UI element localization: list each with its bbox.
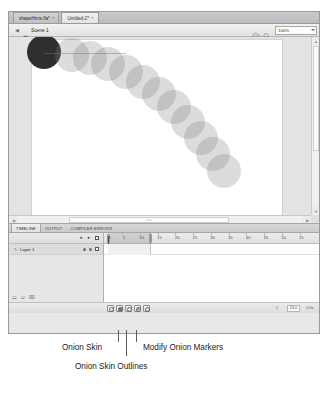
new-folder-icon[interactable]: ▱	[21, 295, 25, 300]
stage-vertical-scrollbar[interactable]: ▲ ▼	[311, 37, 319, 215]
close-icon[interactable]: ×	[52, 16, 55, 20]
leader-line-onion-skin-outlines	[126, 330, 127, 356]
edit-symbol-icon[interactable]	[263, 26, 271, 34]
frame-row[interactable]	[104, 244, 319, 255]
frames-column: 1510152025303540455055	[104, 233, 319, 302]
ruler-tick-label: 10	[140, 236, 144, 240]
zoom-level-value: 100%	[278, 28, 289, 33]
ruler-tick-label: 50	[282, 236, 286, 240]
layers-column: ● ● ✎ Layer 1 ▭ ▱ ⌧	[9, 233, 104, 302]
ruler-tick-label: 5	[123, 236, 125, 240]
motion-guide-line	[44, 53, 126, 54]
center-frame-button[interactable]	[107, 305, 114, 312]
flash-document-window: shapeHints.fla* × Untitled-2* × ◀ Scene …	[8, 11, 320, 334]
tab-compiler-errors[interactable]: COMPILER ERRORS	[66, 224, 116, 232]
stage-canvas[interactable]	[31, 39, 283, 215]
onion-skin-range-marker[interactable]	[108, 233, 151, 244]
fps-readout[interactable]: 24.0	[287, 305, 300, 312]
scroll-right-icon[interactable]: ▶	[303, 216, 311, 223]
stage-horizontal-scrollbar[interactable]: ◀ ▶	[9, 215, 311, 223]
layer-row[interactable]: ✎ Layer 1	[9, 244, 103, 255]
document-tab-shapehints[interactable]: shapeHints.fla* ×	[13, 12, 59, 23]
edit-multiple-frames-button[interactable]	[134, 305, 141, 312]
tab-output-label: OUTPUT	[45, 226, 63, 231]
tab-compiler-errors-label: COMPILER ERRORS	[70, 226, 112, 231]
timeline-body: ● ● ✎ Layer 1 ▭ ▱ ⌧	[9, 233, 319, 302]
ruler-tick-label: 35	[228, 236, 232, 240]
ruler-tick-label: 25	[193, 236, 197, 240]
document-tab-label: Untitled-2*	[67, 16, 88, 21]
panel-tab-bar: TIMELINE OUTPUT COMPILER ERRORS	[9, 223, 319, 233]
scroll-up-icon[interactable]: ▲	[312, 37, 319, 45]
frames-grid[interactable]	[104, 244, 319, 302]
layer-outline-box[interactable]	[95, 247, 99, 251]
back-arrow-icon[interactable]: ◀	[15, 27, 19, 33]
onion-skin-outlines-button[interactable]	[125, 305, 132, 312]
zoom-level-select[interactable]: 100%	[275, 26, 317, 35]
stage-pasteboard[interactable]	[9, 37, 311, 215]
ruler-tick-label: 20	[175, 236, 179, 240]
lock-icon[interactable]: ●	[87, 236, 90, 240]
layer-tools: ▭ ▱ ⌧	[12, 295, 35, 300]
layer-column-headers: ● ●	[9, 233, 103, 244]
outline-box-icon[interactable]	[95, 236, 99, 240]
document-tab-untitled[interactable]: Untitled-2* ×	[61, 12, 98, 23]
stage-region: ▲ ▼ ◀ ▶	[9, 37, 319, 223]
onion-skin-ghost	[207, 154, 241, 188]
ruler-tick-label: 30	[211, 236, 215, 240]
leader-line-onion-skin	[118, 330, 119, 342]
tab-timeline[interactable]: TIMELINE	[11, 224, 41, 232]
keyframe-span[interactable]	[108, 244, 151, 255]
document-tab-bar: shapeHints.fla* × Untitled-2* ×	[9, 12, 319, 24]
onion-marker-end-handle[interactable]	[149, 234, 152, 243]
edit-scene-icon[interactable]	[252, 26, 260, 34]
edit-bar: ◀ Scene 1 100%	[9, 24, 319, 37]
leader-line-modify-onion-markers	[136, 330, 137, 342]
tab-timeline-label: TIMELINE	[16, 226, 36, 231]
vertical-scroll-thumb[interactable]	[313, 46, 319, 151]
scroll-left-icon[interactable]: ◀	[9, 216, 17, 223]
frame-readouts: 1 24.0 0.0s	[271, 305, 316, 312]
new-layer-icon[interactable]: ▭	[12, 295, 17, 300]
ruler-tick-label: 45	[264, 236, 268, 240]
elapsed-time-readout: 0.0s	[304, 306, 316, 310]
ruler-tick-label: 15	[157, 236, 161, 240]
onion-skin-controls	[107, 305, 150, 312]
scene-name-label[interactable]: Scene 1	[31, 28, 49, 33]
close-icon[interactable]: ×	[91, 16, 94, 20]
layer-name-label[interactable]: Layer 1	[20, 247, 80, 252]
modify-onion-markers-button[interactable]	[143, 305, 150, 312]
caption-onion-skin: Onion Skin	[62, 343, 102, 352]
scene-icon	[23, 27, 29, 33]
current-frame-readout: 1	[271, 306, 283, 310]
ruler-tick-label: 1	[109, 236, 111, 240]
timeline-panel: ● ● ✎ Layer 1 ▭ ▱ ⌧	[9, 233, 319, 313]
document-tab-label: shapeHints.fla*	[19, 16, 50, 21]
edit-bar-controls: 100%	[252, 26, 317, 35]
timeline-ruler[interactable]: 1510152025303540455055	[104, 233, 319, 244]
ruler-tick-label: 55	[299, 236, 303, 240]
callout-annotations: Onion Skin Modify Onion Markers Onion Sk…	[0, 330, 328, 398]
caption-onion-skin-outlines: Onion Skin Outlines	[75, 362, 147, 371]
eye-icon[interactable]: ●	[80, 236, 83, 240]
timeline-status-bar: 1 24.0 0.0s	[9, 302, 319, 313]
caption-modify-onion-markers: Modify Onion Markers	[143, 343, 223, 352]
ruler-tick-label: 40	[246, 236, 250, 240]
onion-skin-button[interactable]	[116, 305, 123, 312]
delete-layer-icon[interactable]: ⌧	[29, 295, 35, 300]
scroll-down-icon[interactable]: ▼	[312, 207, 319, 215]
horizontal-scroll-thumb[interactable]	[69, 217, 229, 223]
layer-visibility-dot[interactable]	[83, 248, 86, 251]
chevron-down-icon[interactable]	[311, 29, 315, 31]
pencil-icon: ✎	[14, 247, 17, 252]
layer-lock-dot[interactable]	[89, 248, 92, 251]
tab-output[interactable]: OUTPUT	[41, 224, 67, 232]
